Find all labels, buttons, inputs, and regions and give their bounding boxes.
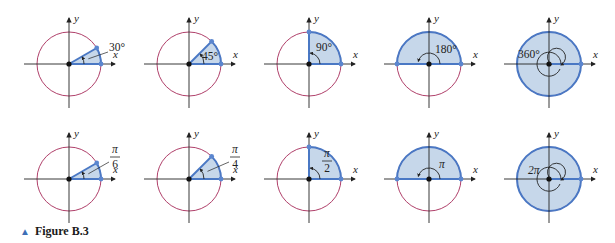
angle-label-denominator: 6 — [112, 158, 118, 170]
x-axis-label: x — [352, 163, 358, 175]
caption-text: Figure B.3 — [35, 224, 89, 238]
angle-panel-degrees-360: xy360° — [504, 12, 598, 108]
angle-label: 180° — [435, 43, 457, 55]
figure-caption: ▲ Figure B.3 — [20, 224, 89, 239]
origin-point — [426, 176, 431, 181]
angle-panel-degrees-30: xy30° — [24, 12, 126, 108]
x-axis-label: x — [232, 48, 238, 60]
origin-point — [426, 61, 431, 66]
angle-label: 2π — [528, 164, 541, 176]
y-axis-label: y — [433, 12, 439, 24]
terminal-point — [209, 154, 214, 159]
origin-point — [186, 61, 191, 66]
initial-point — [219, 62, 224, 67]
x-axis-label: x — [592, 163, 598, 175]
terminal-point — [395, 177, 400, 182]
angle-label: 30° — [109, 41, 126, 53]
angle-panel-radians-360: xy2π — [504, 127, 598, 223]
initial-point — [459, 62, 464, 67]
angle-label-numerator: π — [112, 143, 119, 155]
angle-panel-radians-90: xyπ2 — [264, 127, 358, 223]
origin-point — [306, 61, 311, 66]
caption-triangle-icon: ▲ — [20, 226, 30, 237]
initial-point — [579, 62, 584, 67]
terminal-point — [307, 30, 312, 35]
y-axis-label: y — [193, 127, 199, 139]
angle-label-denominator: 2 — [324, 162, 330, 174]
angle-label: 360° — [518, 48, 540, 60]
origin-point — [66, 61, 71, 66]
origin-point — [186, 176, 191, 181]
angle-panel-radians-180: xyπ — [384, 127, 478, 223]
y-axis-label: y — [313, 12, 319, 24]
initial-point — [459, 177, 464, 182]
terminal-point — [94, 161, 99, 166]
angle-label-denominator: 4 — [232, 158, 238, 170]
y-axis-label: y — [553, 12, 559, 24]
terminal-point — [395, 62, 400, 67]
initial-point — [579, 177, 584, 182]
initial-point — [99, 177, 104, 182]
y-axis-label: y — [73, 12, 79, 24]
y-axis-label: y — [73, 127, 79, 139]
terminal-point — [307, 145, 312, 150]
initial-point — [339, 177, 344, 182]
angle-label: 90° — [316, 41, 333, 53]
angle-panel-degrees-45: xy45° — [144, 12, 238, 108]
initial-point — [99, 62, 104, 67]
origin-point — [66, 176, 71, 181]
x-axis-label: x — [592, 48, 598, 60]
initial-point — [219, 177, 224, 182]
angle-label: 45° — [202, 50, 219, 62]
angle-panel-radians-45: xyπ4 — [144, 127, 240, 223]
angle-label-numerator: π — [232, 143, 239, 155]
origin-point — [306, 176, 311, 181]
y-axis-label: y — [313, 127, 319, 139]
angle-panel-radians-30: xyπ6 — [24, 127, 120, 223]
y-axis-label: y — [433, 127, 439, 139]
x-axis-label: x — [472, 163, 478, 175]
y-axis-label: y — [193, 12, 199, 24]
figure-b3: xy30°xy45°xy90°xy180°xy360°xyπ6xyπ4xyπ2x… — [0, 0, 615, 243]
x-axis-label: x — [352, 48, 358, 60]
angle-panel-degrees-180: xy180° — [384, 12, 478, 108]
terminal-point — [209, 39, 214, 44]
terminal-point — [94, 46, 99, 51]
initial-point — [339, 62, 344, 67]
x-axis-label: x — [472, 48, 478, 60]
y-axis-label: y — [553, 127, 559, 139]
angle-panel-degrees-90: xy90° — [264, 12, 358, 108]
angle-diagram-grid: xy30°xy45°xy90°xy180°xy360°xyπ6xyπ4xyπ2x… — [0, 0, 615, 243]
